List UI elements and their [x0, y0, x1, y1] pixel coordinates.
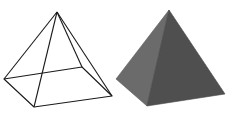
- solid-pyramid: [116, 10, 225, 106]
- pyramids-diagram: [0, 0, 230, 121]
- wireframe-base: [4, 67, 112, 107]
- edge-apex-back: [57, 12, 82, 67]
- edge-apex-right: [57, 12, 112, 96]
- wireframe-pyramid: [4, 12, 112, 107]
